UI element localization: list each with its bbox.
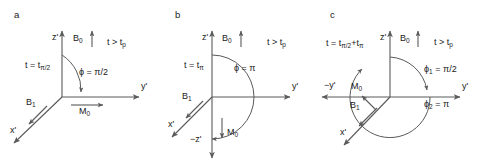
panel-a-axis-y-label: y': [141, 82, 147, 91]
phi1-rotation-arc: [390, 57, 427, 90]
panel-c-b0-label: B0: [400, 34, 410, 43]
axis-x-prime: [172, 97, 212, 137]
panel-a-axis-x-label: x': [10, 126, 16, 135]
panel-a-time-condition: t > tp: [107, 38, 126, 47]
panel-c-axis-z-label: z': [380, 33, 386, 42]
panel-b-b1-label: B1: [182, 92, 192, 101]
panel-c-axis-minus-y-label: −y': [324, 81, 335, 90]
panel-c-phi2-label: ϕ2 = π: [424, 100, 449, 109]
panel-a-phi-label: ϕ = π/2: [79, 68, 108, 77]
nmr-vector-diagram-figure: a z' y': [0, 0, 484, 168]
panel-b-m0-label: M0: [227, 128, 238, 137]
panel-b-b0-label: B0: [222, 34, 232, 43]
panel-b-axis-minus-z-label: −z': [190, 135, 201, 144]
m0-arrow: [362, 96, 376, 110]
panel-b-phi-label: ϕ = π: [234, 64, 256, 73]
panel-a-axis-z-label: z': [52, 33, 58, 42]
panel-c-axis-y-label: y': [462, 82, 468, 91]
panel-c-vectors: [314, 0, 484, 168]
panel-b-axis-y-label: y': [292, 82, 298, 91]
panel-a-b1-label: B1: [26, 98, 36, 107]
b1-arrow: [359, 108, 377, 126]
b1-arrow: [29, 106, 47, 124]
panel-a-m0-label: M0: [79, 107, 90, 116]
panel-a-time-value: t = tπ/2: [25, 61, 50, 70]
b1-arrow: [186, 101, 203, 118]
panel-b-time-value: t = tπ: [184, 61, 204, 70]
panel-c-time-value: t = tπ/2+tπ: [326, 39, 363, 48]
panel-b-axis-z-label: z': [202, 33, 208, 42]
panel-b: b: [162, 0, 314, 168]
panel-c-m0-label: M0: [351, 82, 362, 91]
panel-b-axis-x-label: x': [168, 120, 174, 129]
panel-b-time-condition: t > tp: [267, 38, 286, 47]
panel-c-time-condition: t > tp: [434, 38, 453, 47]
panel-c: c: [314, 0, 484, 168]
panel-a: a z' y': [0, 0, 162, 168]
panel-c-axis-x-label: x': [340, 128, 346, 137]
panel-c-b1-label: B1: [350, 101, 360, 110]
panel-a-vectors: [0, 0, 162, 168]
panel-a-b0-label: B0: [73, 34, 83, 43]
axis-x-prime: [14, 97, 62, 143]
panel-c-phi1-label: ϕ1 = π/2: [424, 65, 457, 74]
